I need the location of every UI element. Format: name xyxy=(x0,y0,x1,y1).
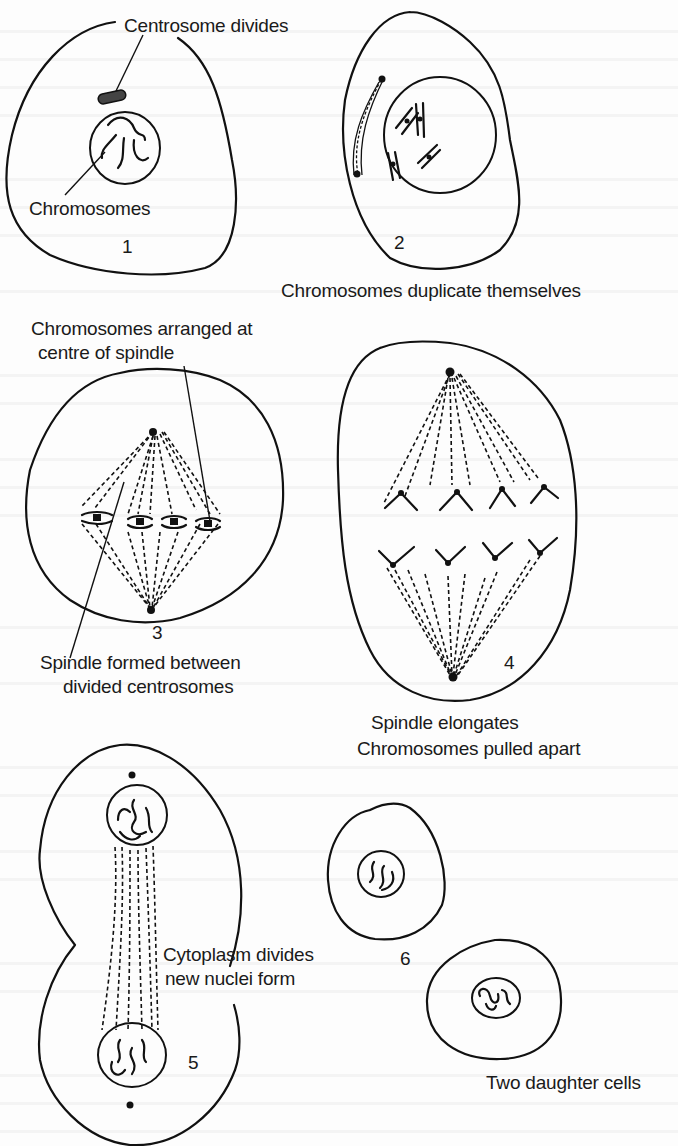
caption-stage-3-bottom-line-2: divided centrosomes xyxy=(63,676,233,698)
caption-stage-5-line-2: new nuclei form xyxy=(165,968,295,990)
caption-stage-4-line-2: Chromosomes pulled apart xyxy=(357,738,580,760)
label-centrosome-divides: Centrosome divides xyxy=(124,15,288,37)
stage-number-5: 5 xyxy=(188,1052,199,1074)
stage-3-cell xyxy=(26,366,283,658)
caption-stage-5-line-1: Cytoplasm divides xyxy=(163,944,314,966)
label-chromosomes: Chromosomes xyxy=(29,198,150,220)
mitosis-diagram-page: Centrosome divides Chromosomes 1 2 Chrom… xyxy=(0,0,678,1146)
diagram-drawing xyxy=(0,0,678,1146)
caption-stage-4-line-1: Spindle elongates xyxy=(371,712,519,734)
stage-number-2: 2 xyxy=(394,232,405,254)
stage-number-4: 4 xyxy=(504,652,515,674)
stage-number-6: 6 xyxy=(400,948,411,970)
stage-2-cell xyxy=(343,12,519,269)
caption-stage-3-top-line-1: Chromosomes arranged at xyxy=(31,318,252,340)
caption-stage-6: Two daughter cells xyxy=(486,1072,641,1094)
stage-number-1: 1 xyxy=(122,236,133,258)
stage-6-cells xyxy=(328,804,561,1059)
caption-stage-3-top-line-2: centre of spindle xyxy=(38,342,174,364)
caption-stage-2: Chromosomes duplicate themselves xyxy=(281,280,581,302)
caption-stage-3-bottom-line-1: Spindle formed between xyxy=(40,652,241,674)
stage-4-cell xyxy=(338,342,577,701)
stage-number-3: 3 xyxy=(152,622,163,644)
